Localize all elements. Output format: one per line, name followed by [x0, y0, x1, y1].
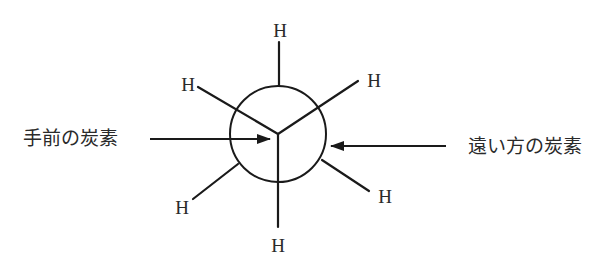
back-carbon-bonds — [193, 42, 369, 199]
h-label-upper-left: H — [181, 74, 195, 95]
front-carbon-bonds — [198, 81, 358, 227]
back-carbon-label: 遠い方の炭素 — [468, 136, 582, 157]
front-bond-upper-right — [278, 81, 358, 134]
h-label-lower-right: H — [378, 186, 392, 207]
h-label-bottom: H — [271, 235, 285, 256]
h-label-lower-left: H — [175, 197, 189, 218]
h-label-top: H — [273, 20, 287, 41]
newman-projection: H H H H H H 手前の炭素 遠い方の炭素 — [0, 0, 603, 268]
back-bond-lower-right — [322, 160, 369, 191]
back-bond-lower-left — [193, 164, 238, 199]
front-carbon-label: 手前の炭素 — [23, 128, 118, 149]
h-label-upper-right: H — [367, 70, 381, 91]
front-bond-upper-left — [198, 87, 278, 134]
